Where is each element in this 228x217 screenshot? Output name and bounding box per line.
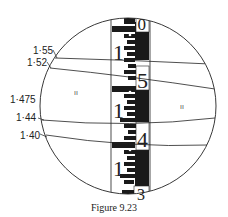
staff-meter-mark: 1 bbox=[113, 40, 124, 65]
staff-meter-mark: 1 bbox=[113, 98, 124, 123]
label-1-475: 1·475 bbox=[10, 95, 36, 105]
field-of-view bbox=[42, 10, 215, 200]
label-1-55: 1·55 bbox=[33, 46, 53, 56]
telescope-view-diagram: 0 5 4 3 1 1 1 bbox=[0, 0, 228, 217]
staff-numeral-5: 5 bbox=[137, 68, 148, 93]
label-1-52: 1·52 bbox=[27, 58, 47, 68]
staff-numeral-4: 4 bbox=[137, 127, 148, 152]
staff-numeral-0: 0 bbox=[138, 15, 147, 34]
figure-caption: Figure 9.23 bbox=[0, 202, 228, 213]
label-1-44: 1·44 bbox=[16, 113, 36, 123]
staff-meter-mark: 1 bbox=[113, 156, 124, 181]
label-1-40: 1·40 bbox=[20, 131, 40, 141]
staff-numeral-3: 3 bbox=[137, 186, 145, 203]
hair-mark-left: ıı bbox=[74, 89, 78, 96]
hair-mark-right: ıı bbox=[180, 103, 184, 110]
